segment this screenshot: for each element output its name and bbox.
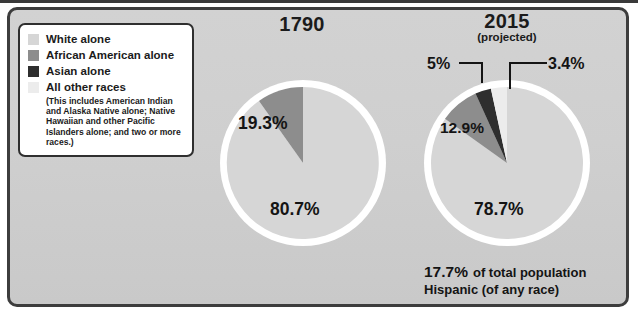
legend-swatch-asian-alone	[28, 66, 39, 77]
legend-item-african-american-alone: African American alone	[28, 48, 184, 63]
legend-item-asian-alone: Asian alone	[28, 64, 184, 79]
legend-swatch-white-alone	[28, 34, 39, 45]
pie-value-2015-african-american-alone: 12.9%	[440, 119, 484, 137]
leader-line-asian-horizontal	[459, 62, 483, 64]
pie-chart-2015	[423, 79, 591, 247]
legend-label-african-american-alone: African American alone	[46, 49, 174, 62]
legend-swatch-all-other-races	[28, 82, 39, 93]
pie-value-2015-all-other-races: 3.4%	[548, 55, 584, 73]
leader-line-other-horizontal	[509, 62, 547, 64]
top-divider-rule	[0, 0, 638, 3]
hispanic-percent-value: 17.7%	[424, 263, 468, 280]
hispanic-population-note: 17.7%of total population Hispanic (of an…	[424, 263, 586, 298]
panel-title-1790: 1790	[232, 13, 372, 36]
legend-box: White alone African American alone Asian…	[18, 23, 194, 157]
pie-chart-1790	[219, 79, 387, 247]
legend-footnote: (This includes American Indian and Alask…	[46, 96, 184, 147]
legend-item-white-alone: White alone	[28, 32, 184, 47]
pie-value-1790-african-american-alone: 19.3%	[238, 113, 288, 134]
legend-label-white-alone: White alone	[46, 33, 111, 46]
legend-label-all-other-races: All other races	[46, 81, 126, 94]
pie-value-2015-white-alone: 78.7%	[474, 199, 524, 220]
hispanic-note-line-1: 17.7%of total population	[424, 263, 586, 281]
pie-value-2015-asian-alone: 5%	[427, 55, 450, 73]
pie-value-1790-white-alone: 80.7%	[270, 199, 320, 220]
legend-label-asian-alone: Asian alone	[46, 65, 111, 78]
infographic-canvas: White alone African American alone Asian…	[0, 0, 638, 319]
leader-line-other-vertical	[509, 62, 511, 89]
legend-swatch-african-american-alone	[28, 50, 39, 61]
legend-item-all-other-races: All other races	[28, 80, 184, 95]
leader-line-asian-vertical	[481, 62, 483, 83]
hispanic-note-line-2: Hispanic (of any race)	[424, 281, 586, 298]
panel-subtitle-2015: (projected)	[437, 31, 577, 43]
hispanic-percent-caption: of total population	[473, 265, 586, 280]
panel-title-2015: 2015	[437, 10, 577, 33]
